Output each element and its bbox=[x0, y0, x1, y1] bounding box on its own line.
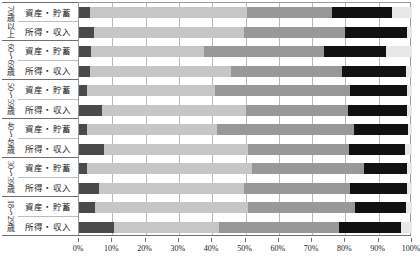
bar-segment bbox=[79, 46, 91, 57]
gridline bbox=[279, 3, 280, 235]
bar-segment bbox=[215, 85, 350, 96]
plot-area bbox=[78, 2, 411, 236]
x-tick-label: 80% bbox=[337, 244, 352, 253]
age-group-label: 60～69歳 bbox=[2, 41, 18, 80]
age-group-label: 50～59歳 bbox=[2, 80, 18, 119]
category-label: 所得・収入 bbox=[18, 22, 78, 42]
bar-segment bbox=[90, 7, 247, 18]
gridline bbox=[112, 3, 113, 235]
bar-segment bbox=[407, 105, 412, 116]
x-tick-mark bbox=[411, 238, 412, 242]
bar-segment bbox=[401, 222, 412, 233]
bar-segment bbox=[204, 46, 324, 57]
category-label: 所得・収入 bbox=[18, 61, 78, 81]
bar-row bbox=[79, 27, 412, 38]
bar-segment bbox=[345, 27, 407, 38]
bar-segment bbox=[231, 66, 342, 77]
bar-segment bbox=[364, 163, 408, 174]
x-tick-mark bbox=[378, 238, 379, 242]
bar-segment bbox=[339, 222, 401, 233]
category-label: 所得・収入 bbox=[18, 217, 78, 237]
gridline bbox=[146, 3, 147, 235]
gridline bbox=[345, 3, 346, 235]
category-label: 所得・収入 bbox=[18, 178, 78, 198]
age-group-label: 18～29歳 bbox=[2, 197, 18, 236]
gridline bbox=[212, 3, 213, 235]
bar-segment bbox=[94, 27, 244, 38]
x-tick-mark bbox=[311, 238, 312, 242]
bar-segment bbox=[79, 124, 87, 135]
x-tick-label: 90% bbox=[370, 244, 385, 253]
bar-segment bbox=[386, 46, 412, 57]
bar-segment bbox=[95, 202, 248, 213]
x-tick-mark bbox=[111, 238, 112, 242]
bar-segment bbox=[406, 202, 412, 213]
bar-segment bbox=[79, 66, 90, 77]
bar-segment bbox=[348, 105, 407, 116]
bar-segment bbox=[349, 144, 405, 155]
bar-segment bbox=[407, 85, 412, 96]
bar-segment bbox=[248, 202, 355, 213]
bar-row bbox=[79, 183, 412, 194]
age-group-label: 70歳以上 bbox=[2, 2, 18, 41]
x-tick-mark bbox=[78, 238, 79, 242]
x-tick-mark bbox=[145, 238, 146, 242]
x-tick-mark bbox=[211, 238, 212, 242]
x-tick-label: 40% bbox=[204, 244, 219, 253]
bar-row bbox=[79, 163, 412, 174]
bar-row bbox=[79, 46, 412, 57]
bar-segment bbox=[217, 124, 355, 135]
bar-segment bbox=[350, 85, 407, 96]
bar-segment bbox=[79, 7, 90, 18]
gridline bbox=[179, 3, 180, 235]
bar-row bbox=[79, 144, 412, 155]
bar-segment bbox=[90, 66, 231, 77]
x-tick-label: 30% bbox=[171, 244, 186, 253]
bar-segment bbox=[79, 27, 94, 38]
bar-segment bbox=[246, 105, 348, 116]
x-tick-label: 70% bbox=[304, 244, 319, 253]
category-label: 所得・収入 bbox=[18, 100, 78, 120]
bar-row bbox=[79, 66, 412, 77]
bar-row bbox=[79, 222, 412, 233]
category-label: 資産・貯蓄 bbox=[18, 80, 78, 100]
bar-segment bbox=[332, 7, 392, 18]
age-group-label: 40～49歳 bbox=[2, 119, 18, 158]
category-label: 所得・収入 bbox=[18, 139, 78, 159]
category-label: 資産・貯蓄 bbox=[18, 2, 78, 22]
x-tick-mark bbox=[178, 238, 179, 242]
category-label: 資産・貯蓄 bbox=[18, 119, 78, 139]
gridline bbox=[379, 3, 380, 235]
x-tick-label: 0% bbox=[73, 244, 84, 253]
bar-row bbox=[79, 202, 412, 213]
x-tick-label: 60% bbox=[270, 244, 285, 253]
age-group-label: 30～39歳 bbox=[2, 158, 18, 197]
x-tick-label: 20% bbox=[137, 244, 152, 253]
bar-segment bbox=[79, 222, 114, 233]
bar-segment bbox=[79, 144, 104, 155]
category-label: 資産・貯蓄 bbox=[18, 158, 78, 178]
bar-segment bbox=[87, 85, 215, 96]
gridline bbox=[246, 3, 247, 235]
bar-segment bbox=[324, 46, 386, 57]
bar-segment bbox=[406, 66, 412, 77]
bar-segment bbox=[408, 124, 412, 135]
bar-segment bbox=[99, 183, 244, 194]
x-tick-mark bbox=[245, 238, 246, 242]
bar-row bbox=[79, 7, 412, 18]
bar-segment bbox=[79, 105, 102, 116]
bar-segment bbox=[91, 46, 204, 57]
x-tick-label: 100% bbox=[402, 244, 420, 253]
x-axis: 0%10%20%30%40%50%60%70%80%90%100% bbox=[0, 238, 416, 258]
bar-segment bbox=[407, 27, 412, 38]
bar-row bbox=[79, 124, 412, 135]
age-group-axis: 70歳以上60～69歳50～59歳40～49歳30～39歳18～29歳 bbox=[2, 2, 18, 236]
bar-segment bbox=[354, 124, 408, 135]
bar-row bbox=[79, 85, 412, 96]
bar-row bbox=[79, 105, 412, 116]
bar-segment bbox=[79, 85, 87, 96]
x-tick-mark bbox=[278, 238, 279, 242]
x-tick-label: 10% bbox=[104, 244, 119, 253]
bar-segment bbox=[79, 202, 95, 213]
bar-segment bbox=[87, 163, 253, 174]
